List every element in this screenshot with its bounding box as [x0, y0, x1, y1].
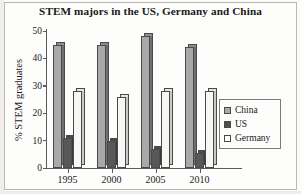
bar-group — [97, 31, 128, 168]
chart-page: STEM majors in the US, Germany and China… — [0, 0, 301, 194]
plot-area: 01020304050 — [47, 31, 237, 168]
scan-edge-bottom — [0, 191, 301, 194]
x-tick-label: 2000 — [102, 174, 122, 185]
x-tick-mark — [200, 169, 201, 173]
bar-side — [214, 88, 217, 165]
bar-face — [205, 91, 214, 168]
bar-face — [107, 141, 116, 168]
bar-germany-2005 — [161, 91, 170, 168]
y-tick-label: 20 — [33, 108, 48, 118]
bar-group — [185, 31, 216, 168]
bar-china-2010 — [185, 47, 194, 168]
legend-swatch-us-icon — [224, 121, 231, 128]
legend-item-china: China — [224, 103, 276, 117]
bar-us-2005 — [151, 149, 160, 168]
legend-label-china: China — [235, 105, 258, 115]
legend-swatch-china-icon — [224, 107, 231, 114]
legend-label-germany: Germany — [235, 133, 270, 143]
bar-face — [195, 153, 204, 168]
bar-china-1995 — [53, 45, 62, 168]
bar-face — [161, 91, 170, 168]
legend-item-germany: Germany — [224, 131, 276, 145]
x-tick-label: 1995 — [58, 174, 78, 185]
bar-china-2005 — [141, 36, 150, 168]
y-tick-label: 0 — [37, 163, 47, 173]
legend-swatch-germany-icon — [224, 135, 231, 142]
bar-face — [97, 45, 106, 168]
bar-side — [82, 88, 85, 165]
y-axis-label-text: % STEM graduates — [13, 58, 24, 140]
y-axis-label: % STEM graduates — [10, 31, 26, 168]
bar-china-2000 — [97, 45, 106, 168]
bar-side — [126, 94, 129, 165]
bar-group — [53, 31, 84, 168]
bar-us-2010 — [195, 153, 204, 168]
y-tick-label: 30 — [33, 81, 48, 91]
bar-face — [63, 138, 72, 168]
bar-face — [185, 47, 194, 168]
bar-us-1995 — [63, 138, 72, 168]
bar-germany-1995 — [73, 91, 82, 168]
y-tick-label: 40 — [33, 53, 48, 63]
chart-title: STEM majors in the US, Germany and China — [8, 5, 293, 17]
bar-face — [53, 45, 62, 168]
x-tick-label: 2010 — [190, 174, 210, 185]
chart-legend: China US Germany — [219, 99, 281, 149]
x-tick-mark — [68, 169, 69, 173]
x-tick-mark — [156, 169, 157, 173]
legend-item-us: US — [224, 117, 276, 131]
bar-germany-2010 — [205, 91, 214, 168]
bar-side — [170, 88, 173, 165]
bar-side — [194, 44, 197, 165]
y-tick-label: 10 — [33, 136, 48, 146]
bar-group — [141, 31, 172, 168]
bar-face — [73, 91, 82, 168]
y-tick-label: 50 — [33, 26, 48, 36]
x-axis-line — [46, 168, 242, 169]
bar-us-2000 — [107, 141, 116, 168]
legend-label-us: US — [235, 119, 247, 129]
bar-side — [150, 33, 153, 165]
x-tick-mark — [112, 169, 113, 173]
bar-face — [151, 149, 160, 168]
bar-face — [117, 97, 126, 168]
bar-germany-2000 — [117, 97, 126, 168]
bar-face — [141, 36, 150, 168]
x-tick-label: 2005 — [146, 174, 166, 185]
